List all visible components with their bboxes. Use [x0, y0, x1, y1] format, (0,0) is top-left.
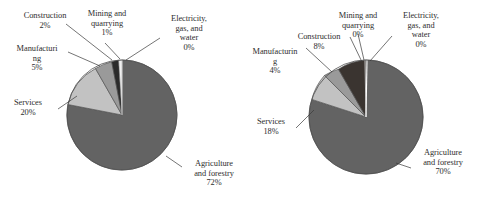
agriculture-callout: Agriculture and forestry 70%: [412, 148, 474, 177]
electricity-callout: Electricity, gas, and water 0%: [160, 14, 218, 52]
mining-callout: Mining and quarrying 1%: [79, 9, 135, 38]
construction-callout: Construction 2%: [14, 11, 76, 30]
pie-chart-panel-left: Construction 2% Mining and quarrying 1% …: [0, 0, 246, 205]
leader-manufacturing: [68, 52, 100, 66]
services-callout: Services 18%: [244, 117, 298, 136]
pie-chart-figure: Construction 2% Mining and quarrying 1% …: [0, 0, 492, 205]
electricity-callout: Electricity, gas, and water 0%: [392, 11, 450, 49]
manufacturing-callout: Manufacturi ng 5%: [8, 44, 66, 73]
services-callout: Services 20%: [2, 98, 54, 117]
manufacturing-callout: Manufacturin g 4%: [242, 47, 308, 76]
leader-electricity: [126, 38, 160, 60]
pie-slices-right: [309, 60, 423, 174]
leader-agriculture: [396, 163, 411, 168]
leader-agriculture: [166, 156, 182, 167]
pie-chart-panel-right: Mining and quarrying 0% Electricity, gas…: [246, 0, 492, 205]
pie-slices-left: [67, 60, 177, 170]
leader-manufacturing: [306, 48, 332, 72]
agriculture-callout: Agriculture and forestry 72%: [183, 159, 245, 188]
